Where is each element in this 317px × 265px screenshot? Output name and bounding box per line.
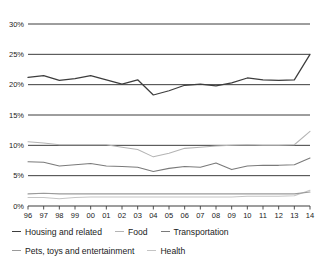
plot-area: 0%5%10%15%20%25%30% 96979899000102030405… — [0, 0, 317, 220]
legend-label: Transportation — [174, 227, 229, 237]
x-axis-labels-group: 96979899000102030405060708091011121314 — [24, 211, 314, 220]
x-axis-tick-label: 96 — [24, 211, 32, 220]
y-axis-tick-label: 15% — [9, 111, 24, 120]
series-line-health — [28, 190, 310, 198]
x-axis-tick-label: 14 — [306, 211, 314, 220]
x-axis-tick-label: 04 — [149, 211, 157, 220]
line-chart: 0%5%10%15%20%25%30% 96979899000102030405… — [0, 0, 317, 265]
series-line-food — [28, 131, 310, 156]
series-line-transportation — [28, 158, 310, 171]
chart-legend: Housing and relatedFoodTransportation Pe… — [0, 222, 317, 265]
y-axis-tick-label: 10% — [9, 141, 24, 150]
x-axis-tick-label: 12 — [274, 211, 282, 220]
legend-label: Pets, toys and entertainment — [25, 246, 134, 256]
legend-label: Housing and related — [25, 227, 102, 237]
gridlines-group — [28, 24, 310, 206]
x-axis-tick-label: 98 — [55, 211, 63, 220]
series-line-pets-toys-and-entertainment — [28, 192, 310, 194]
x-axis-tick-label: 09 — [227, 211, 235, 220]
legend-item-transportation[interactable]: Transportation — [161, 227, 229, 237]
legend-item-health[interactable]: Health — [147, 246, 185, 256]
legend-swatch-icon — [115, 231, 124, 232]
x-axis-tick-label: 97 — [39, 211, 47, 220]
x-axis-tick-label: 06 — [180, 211, 188, 220]
y-axis-tick-label: 30% — [9, 20, 24, 29]
x-axis-tick-label: 05 — [165, 211, 173, 220]
legend-label: Food — [128, 227, 148, 237]
legend-swatch-icon — [147, 250, 156, 251]
x-axis-tick-label: 10 — [243, 211, 251, 220]
legend-row: Pets, toys and entertainmentHealth — [0, 241, 317, 260]
x-axis-tick-label: 07 — [196, 211, 204, 220]
y-axis-tick-label: 25% — [9, 50, 24, 59]
legend-label: Health — [160, 246, 185, 256]
legend-swatch-icon — [161, 231, 170, 232]
y-axis-tick-label: 0% — [13, 202, 24, 211]
x-axis-tick-label: 08 — [212, 211, 220, 220]
x-axis-tick-label: 11 — [259, 211, 267, 220]
series-line-housing-and-related — [28, 54, 310, 95]
legend-item-pets-toys-and-entertainment[interactable]: Pets, toys and entertainment — [12, 246, 134, 256]
x-axis-tick-label: 03 — [133, 211, 141, 220]
legend-item-housing-and-related[interactable]: Housing and related — [12, 227, 102, 237]
series-lines-group — [28, 54, 310, 198]
legend-row: Housing and relatedFoodTransportation — [0, 222, 317, 241]
x-axis-tick-label: 00 — [86, 211, 94, 220]
y-axis-tick-label: 5% — [13, 171, 24, 180]
x-axis-tick-label: 99 — [71, 211, 79, 220]
y-axis-labels-group: 0%5%10%15%20%25%30% — [9, 20, 24, 211]
legend-item-food[interactable]: Food — [115, 227, 148, 237]
legend-swatch-icon — [12, 250, 21, 251]
chart-svg: 0%5%10%15%20%25%30% 96979899000102030405… — [0, 0, 317, 220]
x-axis-tick-label: 13 — [290, 211, 298, 220]
y-axis-tick-label: 20% — [9, 80, 24, 89]
x-axis-tick-label: 01 — [102, 211, 110, 220]
legend-swatch-icon — [12, 231, 21, 232]
x-axis-tick-label: 02 — [118, 211, 126, 220]
